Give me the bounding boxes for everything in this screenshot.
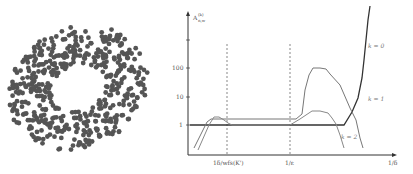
scatter-point xyxy=(112,55,117,60)
scatter-point xyxy=(32,49,37,54)
scatter-point xyxy=(93,58,98,63)
scatter-point xyxy=(15,99,20,104)
scatter-point xyxy=(17,121,22,126)
scatter-point xyxy=(56,71,61,76)
scatter-point xyxy=(42,42,47,47)
scatter-point xyxy=(104,39,109,44)
scatter-point xyxy=(142,67,147,72)
scatter-point xyxy=(117,102,122,107)
scatter-point xyxy=(86,119,91,124)
scatter-point xyxy=(67,127,72,132)
scatter-point xyxy=(103,46,108,51)
scatter-point xyxy=(22,112,27,117)
label-k0: k = 0 xyxy=(368,42,384,49)
scatter-point xyxy=(103,90,108,95)
scatter-point xyxy=(117,129,122,134)
scatter-point xyxy=(25,75,30,80)
scatter-point xyxy=(22,57,27,62)
scatter-point xyxy=(36,63,41,68)
scatter-point xyxy=(78,48,83,53)
scatter-point xyxy=(31,134,36,139)
scatter-point xyxy=(104,84,109,89)
scatter-point xyxy=(117,69,122,74)
scatter-point xyxy=(127,102,132,107)
scatter-point xyxy=(37,103,42,108)
scatter-point xyxy=(60,54,65,59)
scatter-point xyxy=(52,61,57,66)
scatter-point xyxy=(101,118,106,123)
scatter-point xyxy=(132,99,137,104)
y-axis-label-sup: (k) xyxy=(198,12,204,17)
scatter-point xyxy=(29,126,34,131)
label-k2: k = 2 xyxy=(341,133,357,140)
scatter-point xyxy=(86,35,91,40)
scatter-point xyxy=(113,125,118,130)
scatter-point xyxy=(32,54,37,59)
scatter-point xyxy=(128,68,133,73)
scatter-point xyxy=(58,116,63,121)
scatter-point xyxy=(100,34,105,39)
scatter-point xyxy=(41,137,46,142)
scatter-point xyxy=(117,84,122,89)
scatter-point xyxy=(32,63,37,68)
scatter-point xyxy=(72,116,77,121)
scatter-point xyxy=(54,34,59,39)
scatter-point xyxy=(35,94,40,99)
scatter-point xyxy=(135,95,140,100)
scatter-point xyxy=(136,73,141,78)
scatter-point xyxy=(122,64,127,69)
scatter-point xyxy=(72,137,77,142)
curve-k2 xyxy=(198,111,344,150)
scatter-point xyxy=(75,122,80,127)
scatter-point xyxy=(127,48,132,53)
scatter-point xyxy=(32,59,37,64)
scatter-point xyxy=(58,61,63,66)
scatter-point xyxy=(103,55,108,60)
scatter-point xyxy=(119,41,124,46)
scatter-point xyxy=(141,76,146,81)
scatter-point xyxy=(71,60,76,65)
scatter-point xyxy=(43,117,48,122)
scatter-point xyxy=(120,50,125,55)
scatter-point xyxy=(109,119,114,124)
scatter-point xyxy=(143,93,148,98)
scatter-point xyxy=(40,82,45,87)
scatter-point xyxy=(35,130,40,135)
scatter-point xyxy=(52,134,57,139)
scatter-point xyxy=(36,42,41,47)
scatter-point xyxy=(116,60,121,65)
scatter-point xyxy=(83,29,88,34)
scatter-point xyxy=(109,27,114,32)
scatter-point xyxy=(103,113,108,118)
scatter-point xyxy=(99,30,104,35)
scatter-point xyxy=(39,128,44,133)
scatter-point xyxy=(95,127,100,132)
scatter-point xyxy=(71,45,76,50)
scatter-point xyxy=(69,147,74,152)
scatter-point xyxy=(109,93,114,98)
scatter-point xyxy=(93,113,98,118)
annulus-scatter-plot xyxy=(7,25,149,152)
scatter-point xyxy=(71,49,76,54)
scatter-point xyxy=(46,46,51,51)
scatter-point xyxy=(81,128,86,133)
scatter-point xyxy=(120,113,125,118)
scatter-point xyxy=(104,126,109,131)
x-tick-eps: 1/ε xyxy=(285,159,294,166)
scatter-point xyxy=(48,59,53,64)
x-tick-delta: 1/δ xyxy=(388,159,398,166)
scatter-point xyxy=(114,117,119,122)
scatter-point xyxy=(100,69,105,74)
scatter-point xyxy=(108,106,113,111)
scatter-point xyxy=(41,62,46,67)
scatter-point xyxy=(53,126,58,131)
scatter-point xyxy=(77,140,82,145)
scatter-point xyxy=(43,107,48,112)
scatter-point xyxy=(89,63,94,68)
scatter-point xyxy=(51,103,56,108)
scatter-point xyxy=(31,86,36,91)
scatter-point xyxy=(13,68,18,73)
scatter-point xyxy=(32,110,37,115)
scatter-point xyxy=(87,128,92,133)
scatter-point xyxy=(130,93,135,98)
